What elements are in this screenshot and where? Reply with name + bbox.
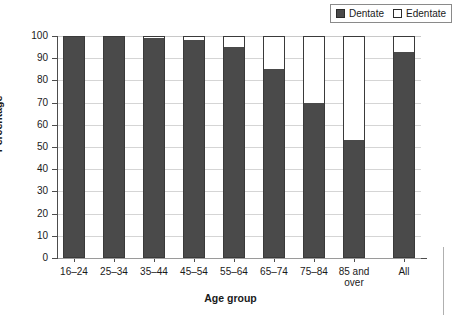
bar-segment-dentate[interactable] xyxy=(393,52,415,258)
y-axis-tick xyxy=(52,125,57,126)
x-axis-title: Age group xyxy=(0,292,461,304)
bar-segment-dentate[interactable] xyxy=(183,40,205,258)
y-axis-tick-label: 50 xyxy=(18,142,48,152)
y-axis-tick-label: 0 xyxy=(18,253,48,263)
bar-stack[interactable] xyxy=(63,36,85,258)
page-rule xyxy=(443,247,444,315)
bar-stack[interactable] xyxy=(263,36,285,258)
y-axis-tick xyxy=(52,58,57,59)
bar-segment-dentate[interactable] xyxy=(263,69,285,258)
bar-stack[interactable] xyxy=(143,36,165,258)
y-axis-tick-label: 80 xyxy=(18,75,48,85)
y-axis-title: Percentage xyxy=(0,96,4,153)
chart-legend: DentateEdentate xyxy=(330,4,452,23)
y-axis-tick-label: 10 xyxy=(18,231,48,241)
legend-entry-edentate[interactable]: Edentate xyxy=(393,9,446,19)
bar-segment-dentate[interactable] xyxy=(343,140,365,258)
legend-label: Dentate xyxy=(349,9,384,19)
y-axis-tick xyxy=(52,36,57,37)
y-axis-tick xyxy=(52,236,57,237)
y-axis-tick-label: 20 xyxy=(18,209,48,219)
y-axis-tick xyxy=(52,191,57,192)
bar-segment-dentate[interactable] xyxy=(63,36,85,258)
bar-segment-dentate[interactable] xyxy=(143,38,165,258)
bar-stack[interactable] xyxy=(303,36,325,258)
plot-area xyxy=(58,36,421,258)
gridline xyxy=(58,258,421,259)
legend-label: Edentate xyxy=(406,9,446,19)
y-axis-tick xyxy=(52,214,57,215)
legend-swatch-icon xyxy=(393,9,402,18)
bar-segment-edentate[interactable] xyxy=(393,36,415,52)
y-axis-tick xyxy=(52,147,57,148)
bar-stack[interactable] xyxy=(223,36,245,258)
y-axis-tick xyxy=(52,258,57,259)
bar-segment-edentate[interactable] xyxy=(343,36,365,140)
bar-segment-edentate[interactable] xyxy=(223,36,245,47)
bar-segment-dentate[interactable] xyxy=(303,103,325,258)
bar-stack[interactable] xyxy=(393,36,415,258)
y-axis-tick-label: 90 xyxy=(18,53,48,63)
bar-segment-edentate[interactable] xyxy=(303,36,325,103)
y-axis-tick-label: 40 xyxy=(18,164,48,174)
y-axis-tick-label: 100 xyxy=(18,31,48,41)
y-axis-tick-label: 70 xyxy=(18,98,48,108)
bar-chart: DentateEdentate Percentage 1009080706050… xyxy=(0,0,461,315)
bar-stack[interactable] xyxy=(183,36,205,258)
x-axis-tick-label: All xyxy=(375,266,433,277)
legend-entry-dentate[interactable]: Dentate xyxy=(336,9,384,19)
y-axis-tick xyxy=(52,169,57,170)
legend-swatch-icon xyxy=(336,9,345,18)
bar-stack[interactable] xyxy=(343,36,365,258)
y-axis-tick-label: 30 xyxy=(18,186,48,196)
bar-segment-dentate[interactable] xyxy=(223,47,245,258)
bar-segment-dentate[interactable] xyxy=(103,36,125,258)
bar-stack[interactable] xyxy=(103,36,125,258)
y-axis-tick-label: 60 xyxy=(18,120,48,130)
y-axis-tick xyxy=(52,103,57,104)
bar-segment-edentate[interactable] xyxy=(263,36,285,69)
y-axis-tick xyxy=(52,80,57,81)
